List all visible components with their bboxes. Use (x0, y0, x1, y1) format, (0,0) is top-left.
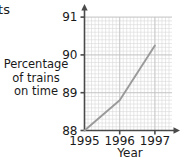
y-axis-label-line-2: of trains (0, 72, 72, 86)
x-axis-label: Year (95, 146, 165, 160)
y-axis-label-line-1: Percentage (0, 58, 72, 72)
y-axis-label-line-3: on time (0, 85, 72, 99)
grid-minor (85, 17, 173, 131)
y-axis-label: Percentage of trains on time (0, 58, 72, 99)
y-tick-label: 91 (62, 10, 77, 24)
clipped-text-fragment: ts (0, 2, 10, 17)
chart-figure: ts Percentage of trains on time Year 888… (0, 0, 185, 163)
